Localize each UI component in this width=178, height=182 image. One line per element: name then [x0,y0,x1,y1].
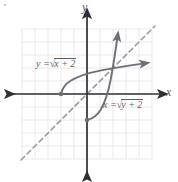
endpoint-marker-curve1 [59,92,64,97]
identity-line-y-equals-x [21,26,155,160]
graph-canvas [0,0,178,182]
endpoint-marker-curve2 [85,118,90,123]
